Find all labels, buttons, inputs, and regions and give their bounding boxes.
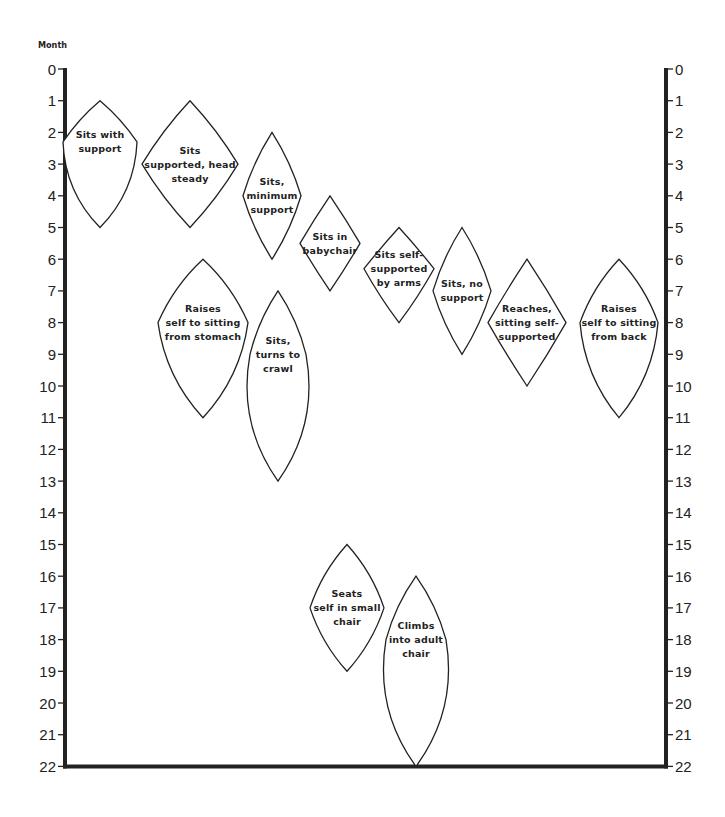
milestone-label: Sits, no (441, 278, 483, 289)
milestone-label: support (78, 143, 121, 154)
y-tick-label: 3 (675, 156, 683, 173)
y-tick-label: 7 (48, 282, 56, 299)
y-tick-label: 6 (675, 251, 683, 268)
milestone-diamond: Sits,minimumsupport (243, 132, 301, 259)
diamond-shape (383, 576, 448, 766)
left-axis-ticks: 012345678910111213141516171819202122 (39, 61, 65, 775)
milestone-label: chair (402, 648, 430, 659)
y-tick-label: 5 (675, 219, 683, 236)
y-tick-label: 6 (48, 251, 56, 268)
milestone-diamond: Sits self-supportedby arms (364, 228, 434, 323)
y-tick-label: 4 (48, 187, 56, 204)
milestone-label: support (250, 204, 293, 215)
milestone-label: self to sitting (582, 317, 657, 328)
milestone-label: supported, head (144, 159, 235, 170)
y-tick-label: 7 (675, 282, 683, 299)
y-tick-label: 0 (675, 61, 683, 78)
milestone-label: minimum (246, 190, 297, 201)
y-tick-label: 16 (39, 568, 56, 585)
y-tick-label: 3 (48, 156, 56, 173)
milestone-label: Raises (601, 303, 637, 314)
milestone-label: Sits, (260, 176, 285, 187)
y-tick-label: 13 (39, 473, 56, 490)
milestone-diamond: Raisesself to sittingfrom back (580, 259, 658, 418)
milestone-label: self to sitting (166, 317, 241, 328)
y-tick-label: 12 (675, 441, 692, 458)
y-tick-label: 20 (675, 695, 692, 712)
y-tick-label: 9 (675, 346, 683, 363)
y-tick-label: 10 (675, 378, 692, 395)
y-tick-label: 12 (39, 441, 56, 458)
y-tick-label: 2 (48, 124, 56, 141)
milestone-label: by arms (377, 277, 421, 288)
milestone-label: support (440, 292, 483, 303)
milestone-chart: Month 0123456789101112131415161718192021… (0, 0, 725, 817)
milestone-diamond: Sits, nosupport (433, 228, 491, 355)
milestone-label: Seats (332, 588, 363, 599)
milestone-label: steady (171, 173, 209, 184)
y-tick-label: 15 (675, 536, 692, 553)
milestone-label: supported (499, 331, 556, 342)
milestone-label: Reaches, (502, 303, 552, 314)
diamond-shape (247, 291, 309, 481)
milestone-label: Sits, (266, 335, 291, 346)
right-axis-ticks: 012345678910111213141516171819202122 (666, 61, 692, 775)
milestone-label: Sits self- (375, 249, 424, 260)
milestone-diamond: Raisesself to sittingfrom stomach (158, 259, 248, 418)
y-tick-label: 0 (48, 61, 56, 78)
y-tick-label: 13 (675, 473, 692, 490)
milestone-label: Sits with (76, 129, 125, 140)
y-tick-label: 10 (39, 378, 56, 395)
y-tick-label: 16 (675, 568, 692, 585)
y-tick-label: 19 (675, 663, 692, 680)
milestone-label: turns to (256, 349, 301, 360)
y-tick-label: 14 (675, 504, 692, 521)
milestone-diamond: Reaches,sitting self-supported (488, 259, 566, 386)
y-tick-label: 22 (675, 758, 692, 775)
y-axis-title: Month (38, 40, 67, 50)
y-tick-label: 11 (675, 409, 691, 426)
milestone-label: chair (333, 616, 361, 627)
y-tick-label: 1 (675, 92, 683, 109)
milestone-diamond: Seatsself in smallchair (310, 545, 384, 672)
milestone-label: Raises (185, 303, 221, 314)
y-tick-label: 17 (39, 599, 56, 616)
milestone-label: Climbs (397, 620, 434, 631)
diamond-shape (63, 101, 137, 228)
milestone-label: babychair (303, 245, 358, 256)
milestone-label: into adult (389, 634, 443, 645)
y-tick-label: 8 (48, 314, 56, 331)
y-tick-label: 8 (675, 314, 683, 331)
milestone-diamond: Climbsinto adultchair (383, 576, 448, 766)
milestone-label: from back (591, 331, 647, 342)
diamond-shape (433, 228, 491, 355)
y-tick-label: 18 (39, 631, 56, 648)
y-tick-label: 20 (39, 695, 56, 712)
y-tick-label: 22 (39, 758, 56, 775)
milestone-diamonds: Sits withsupportSitssupported, headstead… (63, 101, 658, 767)
milestone-diamond: Sitssupported, headsteady (142, 101, 238, 228)
milestone-diamond: Sits inbabychair (300, 196, 360, 291)
milestone-label: supported (371, 263, 428, 274)
y-tick-label: 14 (39, 504, 56, 521)
y-tick-label: 1 (48, 92, 56, 109)
y-tick-label: 4 (675, 187, 683, 204)
y-tick-label: 11 (40, 409, 56, 426)
y-tick-label: 21 (675, 726, 692, 743)
milestone-diamond: Sits,turns tocrawl (247, 291, 309, 481)
diamond-shape (300, 196, 360, 291)
y-tick-label: 19 (39, 663, 56, 680)
y-tick-label: 9 (48, 346, 56, 363)
y-tick-label: 21 (39, 726, 56, 743)
milestone-label: crawl (263, 363, 293, 374)
milestone-label: sitting self- (495, 317, 559, 328)
y-tick-label: 18 (675, 631, 692, 648)
milestone-label: from stomach (165, 331, 241, 342)
y-tick-label: 15 (39, 536, 56, 553)
y-tick-label: 17 (675, 599, 692, 616)
milestone-label: self in small (313, 602, 380, 613)
milestone-label: Sits in (312, 231, 347, 242)
milestone-diamond: Sits withsupport (63, 101, 137, 228)
diamond-shape (364, 228, 434, 323)
y-tick-label: 5 (48, 219, 56, 236)
